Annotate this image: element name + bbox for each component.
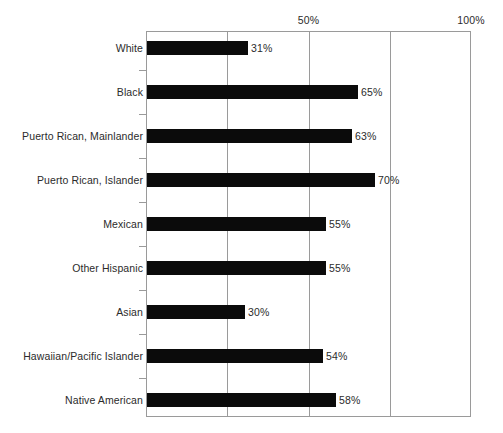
category-label: Hawaiian/Pacific Islander (23, 349, 143, 363)
bar-row: Other Hispanic55% (0, 261, 503, 275)
bar-row: Black65% (0, 85, 503, 99)
bar-row: Mexican55% (0, 217, 503, 231)
bar (147, 129, 352, 143)
bar-row: Puerto Rican, Mainlander63% (0, 129, 503, 143)
category-label: Puerto Rican, Mainlander (22, 129, 143, 143)
category-axis-tick (139, 378, 147, 379)
bar-value-label: 30% (248, 305, 269, 319)
category-label: Other Hispanic (72, 261, 143, 275)
bar-chart: 50% 100% White31%Black65%Puerto Rican, M… (0, 0, 503, 433)
category-axis-tick (139, 114, 147, 115)
bar (147, 393, 336, 407)
bar-row: Puerto Rican, Islander70% (0, 173, 503, 187)
bar-value-label: 31% (251, 41, 272, 55)
category-axis-tick (139, 290, 147, 291)
bar (147, 349, 323, 363)
category-label: Puerto Rican, Islander (37, 173, 143, 187)
x-axis-tick-label-100: 100% (457, 14, 484, 26)
bar-row: Asian30% (0, 305, 503, 319)
category-axis-tick (139, 158, 147, 159)
bar-value-label: 55% (329, 261, 350, 275)
category-axis-tick (139, 334, 147, 335)
category-label: Asian (116, 305, 143, 319)
bar-value-label: 58% (339, 393, 360, 407)
bar-value-label: 63% (355, 129, 376, 143)
bar (147, 305, 245, 319)
bar-row: White31% (0, 41, 503, 55)
category-label: Mexican (103, 217, 143, 231)
category-axis-tick (139, 202, 147, 203)
bar-row: Hawaiian/Pacific Islander54% (0, 349, 503, 363)
bar-value-label: 55% (329, 217, 350, 231)
category-label: White (116, 41, 143, 55)
bar (147, 217, 326, 231)
category-label: Black (117, 85, 143, 99)
category-axis-tick (139, 70, 147, 71)
bar (147, 41, 248, 55)
category-axis-tick (139, 246, 147, 247)
bar (147, 261, 326, 275)
bar-value-label: 54% (326, 349, 347, 363)
x-axis-tick-label-50: 50% (298, 14, 319, 26)
bar-value-label: 65% (361, 85, 382, 99)
bar-row: Native American58% (0, 393, 503, 407)
bar-value-label: 70% (378, 173, 399, 187)
bar (147, 173, 375, 187)
category-label: Native American (65, 393, 143, 407)
bar (147, 85, 358, 99)
